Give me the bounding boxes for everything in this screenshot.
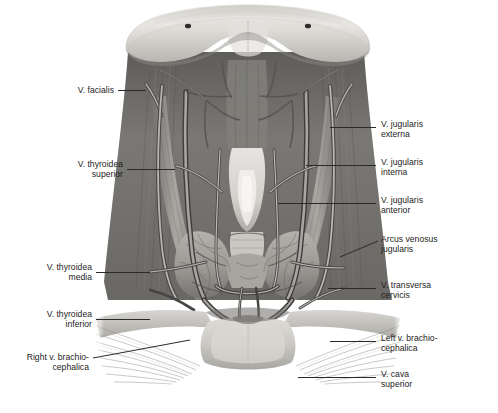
leader-v-thyroidea-superior (127, 169, 175, 170)
leader-v-jugularis-externa (330, 127, 376, 128)
leader-v-facialis (118, 90, 146, 91)
mental-foramen-right (185, 24, 191, 29)
clavicle-right (96, 310, 214, 338)
leader-v-thyroidea-inferior (96, 319, 150, 320)
label-v-thyroidea-superior: V. thyroideasuperior (18, 159, 123, 180)
label-right-v-brachiocephalica: Right v. brachio-cephalica (1, 352, 89, 373)
label-v-cava-superior: V. cavasuperior (381, 369, 491, 390)
label-v-jugularis-anterior: V. jugularisanterior (381, 195, 491, 216)
leader-v-thyroidea-media (96, 272, 150, 273)
label-v-jugularis-externa: V. jugularisexterna (381, 119, 491, 140)
leader-left-v-brachiocephalica (330, 341, 376, 342)
label-v-thyroidea-media: V. thyroideamedia (6, 262, 92, 283)
label-left-v-brachiocephalica: Left v. brachio-cephalica (381, 333, 495, 354)
mental-foramen-left (305, 24, 311, 29)
label-arcus-venosus-jugularis: Arcus venosusjugularis (381, 234, 495, 255)
leader-v-jugularis-interna (306, 165, 376, 166)
label-v-transversa-cervicis: V. transversacervicis (381, 280, 493, 301)
label-v-jugularis-interna: V. jugularisinterna (381, 157, 491, 178)
leader-v-cava-superior (298, 377, 376, 378)
leader-v-transversa-cervicis (328, 288, 376, 289)
label-v-facialis: V. facialis (18, 85, 114, 95)
label-v-thyroidea-inferior: V. thyroideainferior (6, 309, 92, 330)
thyroid-isthmus (227, 254, 267, 289)
leader-v-jugularis-anterior (278, 203, 376, 204)
